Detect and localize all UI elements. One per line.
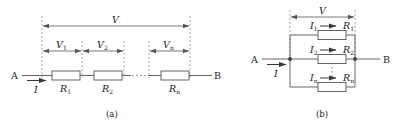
branch-current-label-i1-sub: 1	[314, 25, 318, 32]
resistor-label-b-r2: R2	[343, 45, 354, 55]
circuit-figure	[0, 0, 400, 128]
resistor-label-rn-sub: n	[176, 88, 180, 95]
voltage-label-vn: Vn	[163, 40, 174, 50]
current-label-a: I	[34, 85, 38, 95]
panel-a-series	[22, 16, 212, 81]
terminal-label-b-left: A	[251, 55, 258, 65]
node-dot-right	[353, 57, 357, 61]
resistor-box-rn	[161, 71, 189, 80]
resistor-label-b-rn-sub: n	[350, 77, 354, 84]
voltage-label-v1-sub: 1	[63, 44, 67, 51]
resistor-label-b-r2-sub: 2	[350, 49, 354, 56]
branch-current-label-i2: I2	[310, 45, 318, 55]
branch-current-label-in-sub: n	[314, 77, 318, 84]
resistor-box-b-r1	[318, 31, 346, 40]
voltage-label-v1: V1	[56, 40, 67, 50]
branch-current-label-i1: I1	[310, 21, 318, 31]
resistor-box-r1	[52, 71, 80, 80]
total-voltage-label-b: V	[319, 6, 326, 16]
panel-b-parallel	[262, 10, 380, 92]
resistor-label-r1: R1	[60, 84, 71, 94]
resistor-label-b-r1: R1	[343, 21, 354, 31]
voltage-label-v2-sub: 2	[104, 44, 108, 51]
resistor-label-r2: R2	[102, 84, 113, 94]
resistor-label-b-rn: Rn	[343, 73, 354, 83]
resistor-box-r2	[94, 71, 122, 80]
voltage-label-v1-base: V	[56, 39, 63, 50]
terminal-label-a-right: B	[214, 71, 221, 81]
voltage-label-vn-sub: n	[170, 44, 174, 51]
resistor-label-r1-sub: 1	[67, 88, 71, 95]
resistor-box-b-r2	[318, 55, 346, 64]
panel-caption-b: (b)	[316, 110, 328, 119]
horizontal-ellipsis-a	[132, 75, 146, 77]
resistor-label-b-r1-sub: 1	[350, 25, 354, 32]
panel-caption-a: (a)	[106, 110, 118, 119]
resistor-label-r2-sub: 2	[109, 88, 113, 95]
terminal-label-a-left: A	[11, 71, 18, 81]
voltage-label-v2: V2	[97, 40, 108, 50]
voltage-label-vn-base: V	[163, 39, 170, 50]
branch-current-label-in: In	[310, 73, 318, 83]
node-dot-left	[288, 57, 292, 61]
current-label-b: I	[274, 69, 278, 79]
resistor-label-rn: Rn	[169, 84, 180, 94]
total-voltage-label-a: V	[112, 15, 119, 25]
branch-current-label-i2-sub: 2	[314, 49, 318, 56]
resistor-box-b-rn	[318, 83, 346, 92]
terminal-label-b-right: B	[383, 55, 390, 65]
voltage-label-v2-base: V	[97, 39, 104, 50]
